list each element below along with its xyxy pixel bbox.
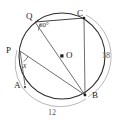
chord-p-b <box>20 51 85 95</box>
chord-q-b <box>35 22 85 95</box>
arc-length-label-cb: 18 <box>102 52 110 60</box>
center-point-marker-o <box>60 54 63 57</box>
point-label-c: C <box>77 9 83 18</box>
geometry-canvas <box>0 0 120 122</box>
point-label-b: B <box>92 91 98 100</box>
chord-c-b <box>84 18 85 95</box>
point-marker-a <box>24 86 26 88</box>
angle-label-q: 60° <box>39 22 49 29</box>
point-marker-c <box>83 17 86 20</box>
point-marker-b <box>84 94 87 97</box>
point-label-p: P <box>6 46 11 55</box>
geometry-figure: Q C P A B O 60° x 18 12 <box>0 0 120 122</box>
point-label-o: O <box>66 51 73 60</box>
angle-label-p: x <box>23 62 26 70</box>
arc-length-label-ab: 12 <box>48 109 56 117</box>
point-label-a: A <box>14 81 21 90</box>
point-label-q: Q <box>26 12 33 21</box>
